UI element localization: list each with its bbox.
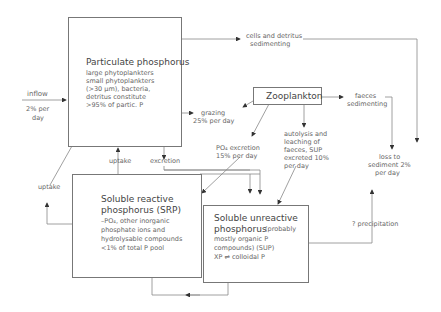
po4-excretion-line-2: 15% per day (216, 152, 257, 161)
inflow-rate-line-2: day (32, 114, 44, 123)
srp-title-2: phosphorus (SRP) (101, 205, 181, 215)
faeces-line-2: sedimenting (347, 100, 387, 109)
srp-line-1: –PO₄, other inorganic (101, 217, 169, 226)
loss-line-3: per day (375, 169, 400, 178)
sup-line-2: compounds) (SUP) (214, 244, 274, 253)
cells-sedimenting-line-2: sedimenting (250, 40, 290, 49)
particulate-line-5: >95% of partic. P (86, 101, 143, 110)
particulate-phosphorus-box: Particulate phosphorus large phytoplankt… (68, 17, 182, 147)
srp-title-1: Soluble reactive (101, 194, 173, 204)
inflow-label: inflow (27, 90, 48, 98)
srp-box: Soluble reactive phosphorus (SRP) –PO₄, … (72, 174, 202, 278)
particulate-title: Particulate phosphorus (86, 57, 190, 67)
grazing-line-2: 25% per day (193, 117, 234, 126)
sup-title-2-suffix: (probably (265, 225, 296, 234)
sup-box: Soluble unreactive phosphorus (probably … (203, 205, 309, 283)
excretion-label: excretion (150, 157, 180, 166)
sup-title-2: phosphorus (214, 224, 267, 234)
sup-line-3: XP ⇌ colloidal P (214, 253, 265, 262)
uptake-left-label: uptake (38, 183, 60, 192)
srp-line-3: hydrolysable compounds (101, 235, 182, 244)
inflow-rate-line-1: 2% per (26, 105, 49, 114)
sup-title-1: Soluble unreactive (214, 213, 298, 223)
srp-line-4: <1% of total P pool (101, 244, 164, 253)
zooplankton-title: Zooplankton (266, 91, 323, 101)
zooplankton-box: Zooplankton (253, 87, 322, 105)
srp-line-2: phosphate ions and (101, 226, 165, 235)
autolysis-line-5: per day (284, 162, 309, 171)
sup-line-1: mostly organic P (214, 235, 268, 244)
precipitation-label: ? precipitation (352, 220, 398, 229)
uptake-mid-label: uptake (109, 157, 131, 166)
